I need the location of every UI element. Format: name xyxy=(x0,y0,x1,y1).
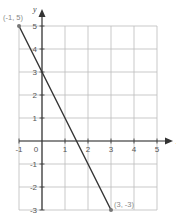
data-point-marker xyxy=(17,24,21,28)
y-tick-label: 4 xyxy=(33,45,38,54)
x-tick-label: 2 xyxy=(86,145,91,154)
x-tick-label: 1 xyxy=(63,145,68,154)
y-tick-label: -3 xyxy=(30,206,38,215)
x-tick-label: 0 xyxy=(34,145,39,154)
y-tick-label: 1 xyxy=(33,114,38,123)
x-tick-label: 3 xyxy=(109,145,114,154)
y-tick-label: -1 xyxy=(30,160,38,169)
point-label: (3, -3) xyxy=(114,200,135,209)
data-point-marker xyxy=(109,208,113,212)
point-annotations: (-1, 5)(3, -3) xyxy=(3,13,135,209)
y-tick-label: 2 xyxy=(33,91,38,100)
x-tick-label: 5 xyxy=(155,145,160,154)
line-chart: xy -101234554321-1-2-3 (-1, 5)(3, -3) xyxy=(0,0,176,215)
x-tick-label: 4 xyxy=(132,145,137,154)
x-axis-label: x xyxy=(175,137,176,146)
y-axis-label: y xyxy=(32,5,37,14)
y-tick-label: 3 xyxy=(33,68,38,77)
point-label: (-1, 5) xyxy=(3,13,24,22)
x-axis-arrow-icon xyxy=(165,138,173,145)
y-tick-label: 5 xyxy=(33,22,38,31)
y-tick-label: -2 xyxy=(30,183,38,192)
axes: xy xyxy=(19,5,176,210)
x-tick-label: -1 xyxy=(15,145,23,154)
y-axis-arrow-icon xyxy=(39,9,46,17)
